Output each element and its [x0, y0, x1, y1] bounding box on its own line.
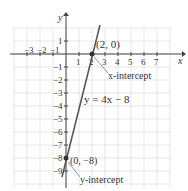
svg-text:4: 4 — [115, 57, 120, 67]
y-intercept-point — [64, 156, 69, 161]
svg-text:−2: −2 — [37, 45, 47, 55]
svg-text:1: 1 — [58, 36, 63, 46]
y-intercept-label: y-intercept — [80, 174, 124, 185]
svg-text:−5: −5 — [53, 114, 63, 124]
x-axis-label: x — [177, 55, 183, 66]
svg-text:6: 6 — [141, 57, 146, 67]
graph: x y −3−2−112345671−1−2−3−4−5−6−7−8−9 (2,… — [0, 0, 188, 191]
svg-text:−7: −7 — [53, 140, 63, 150]
svg-text:−1: −1 — [50, 45, 60, 55]
y-axis-label: y — [57, 12, 63, 23]
coordinate-plane: x y −3−2−112345671−1−2−3−4−5−6−7−8−9 (2,… — [0, 0, 188, 191]
svg-text:−2: −2 — [53, 75, 63, 85]
svg-text:3: 3 — [102, 57, 107, 67]
svg-text:7: 7 — [154, 57, 159, 67]
x-intercept-label: x-intercept — [108, 70, 152, 81]
x-intercept-coords: (2, 0) — [96, 38, 120, 51]
svg-text:−4: −4 — [53, 101, 63, 111]
svg-text:−9: −9 — [53, 166, 63, 176]
y-intercept-coords: (0, −8) — [70, 155, 97, 167]
x-intercept-point — [90, 52, 95, 57]
svg-text:−1: −1 — [53, 62, 63, 72]
svg-text:5: 5 — [128, 57, 133, 67]
svg-text:−8: −8 — [53, 153, 63, 163]
equation-label: y = 4x − 8 — [84, 93, 130, 105]
svg-text:−3: −3 — [24, 45, 34, 55]
svg-text:−3: −3 — [53, 88, 63, 98]
svg-text:1: 1 — [76, 57, 81, 67]
svg-text:−6: −6 — [53, 127, 63, 137]
